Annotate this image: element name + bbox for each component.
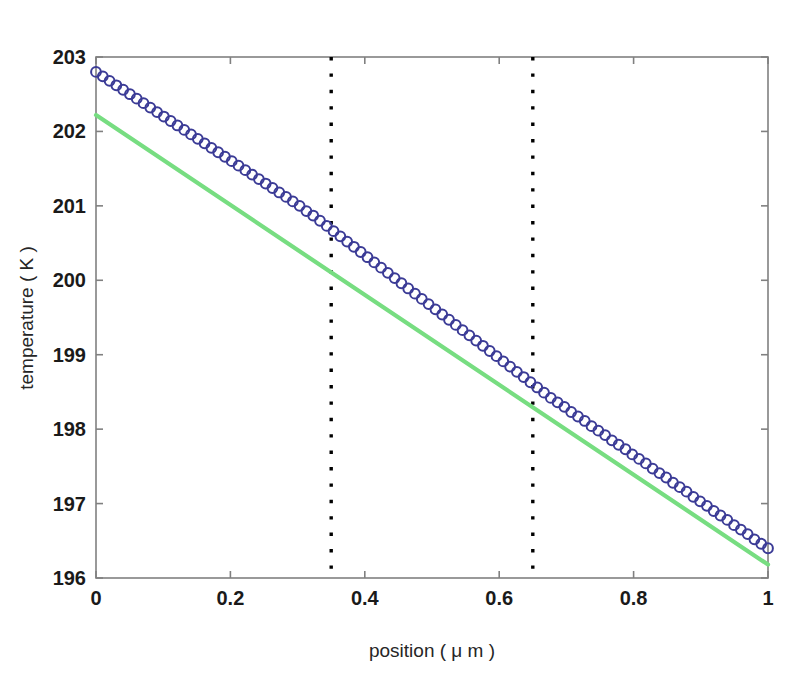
y-tick-label: 199 — [53, 344, 86, 366]
y-tick-label: 201 — [53, 195, 86, 217]
y-tick-label: 198 — [53, 418, 86, 440]
y-tick-label: 202 — [53, 120, 86, 142]
x-tick-label: 1 — [762, 587, 773, 609]
x-tick-label: 0.4 — [351, 587, 380, 609]
plot-background — [0, 0, 799, 686]
x-tick-label: 0 — [90, 587, 101, 609]
y-tick-label: 197 — [53, 493, 86, 515]
x-tick-label: 0.2 — [216, 587, 244, 609]
y-axis-label: temperature ( K ) — [16, 246, 37, 390]
figure-container: 00.20.40.60.81 196197198199200201202203 … — [0, 0, 799, 686]
temperature-position-plot: 00.20.40.60.81 196197198199200201202203 … — [0, 0, 799, 686]
x-axis-label: position ( μ m ) — [369, 640, 495, 661]
y-tick-label: 203 — [53, 46, 86, 68]
y-tick-label: 200 — [53, 269, 86, 291]
x-tick-label: 0.8 — [620, 587, 648, 609]
x-tick-label: 0.6 — [485, 587, 513, 609]
y-tick-label: 196 — [53, 567, 86, 589]
